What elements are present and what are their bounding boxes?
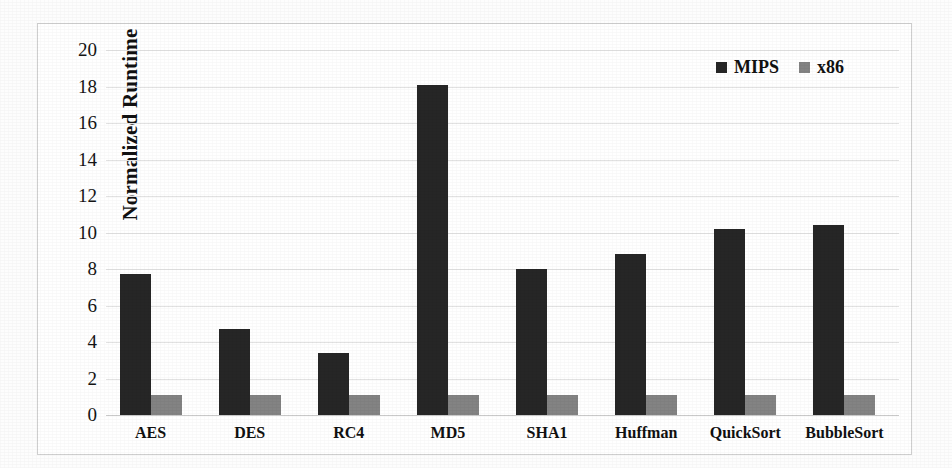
- bar-x86-des: [250, 395, 281, 415]
- y-tick-label-6: 6: [88, 295, 98, 317]
- bar-x86-aes: [151, 395, 182, 415]
- bar-group: [701, 50, 800, 415]
- bar-mips-quicksort: [714, 229, 745, 415]
- plot-area: 20181614121086420 AESDESRC4MD5SHA1Huffma…: [106, 50, 899, 441]
- bar-mips-aes: [120, 274, 151, 415]
- bar-x86-huffman: [646, 395, 677, 415]
- y-tick-label-16: 16: [78, 112, 97, 134]
- bar-group: [304, 50, 403, 415]
- y-tick-label-2: 2: [88, 368, 98, 390]
- y-tick-label-20: 20: [78, 39, 97, 61]
- y-tick-label-12: 12: [78, 185, 97, 207]
- x-tick-label-huffman: Huffman: [615, 424, 677, 442]
- y-tick-label-4: 4: [88, 331, 98, 353]
- y-tick-label-18: 18: [78, 76, 97, 98]
- bar-group: [205, 50, 304, 415]
- bar-mips-huffman: [615, 254, 646, 415]
- bar-group: [800, 50, 899, 415]
- y-tick-label-0: 0: [88, 404, 98, 426]
- bar-group: [602, 50, 701, 415]
- y-tick-label-10: 10: [78, 222, 97, 244]
- bar-x86-md5: [448, 395, 479, 415]
- bar-series-container: [106, 50, 899, 415]
- bar-group: [106, 50, 205, 415]
- bar-mips-rc4: [318, 353, 349, 415]
- bar-x86-sha1: [547, 395, 578, 415]
- bar-mips-sha1: [516, 269, 547, 415]
- x-tick-label-des: DES: [234, 424, 265, 442]
- x-tick-label-bubblesort: BubbleSort: [805, 424, 883, 442]
- x-tick-label-md5: MD5: [431, 424, 466, 442]
- chart-frame: Normalized Runtime MIPSx86 2018161412108…: [37, 23, 912, 455]
- bar-group: [503, 50, 602, 415]
- y-tick-label-14: 14: [78, 149, 97, 171]
- x-tick-label-rc4: RC4: [333, 424, 364, 442]
- gridline-0: 0: [106, 415, 899, 416]
- x-tick-label-sha1: SHA1: [527, 424, 568, 442]
- plot-inner: 20181614121086420: [106, 50, 899, 415]
- bar-chart-figure: Normalized Runtime MIPSx86 2018161412108…: [0, 0, 952, 468]
- bar-x86-bubblesort: [844, 395, 875, 415]
- y-tick-label-8: 8: [88, 258, 98, 280]
- x-tick-label-quicksort: QuickSort: [710, 424, 781, 442]
- bar-group: [403, 50, 502, 415]
- x-tick-label-aes: AES: [135, 424, 166, 442]
- bar-mips-bubblesort: [813, 225, 844, 415]
- bar-x86-quicksort: [745, 395, 776, 415]
- bar-mips-des: [219, 329, 250, 415]
- bar-mips-md5: [417, 85, 448, 415]
- bar-x86-rc4: [349, 395, 380, 415]
